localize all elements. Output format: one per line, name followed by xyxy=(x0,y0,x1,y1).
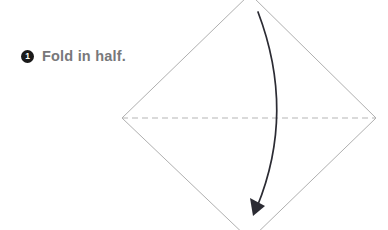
fold-diagram xyxy=(0,0,388,230)
fold-arrow-curve xyxy=(257,12,277,207)
fold-arrowhead-icon xyxy=(250,198,265,216)
origami-instruction-figure: 1 Fold in half. xyxy=(0,0,388,230)
paper-square-outline xyxy=(122,0,376,230)
